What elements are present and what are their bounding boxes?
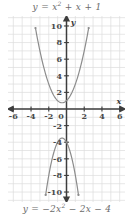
bottom-equation-text: y [23, 204, 28, 214]
tick-label: -10 [48, 187, 63, 197]
tick-label: -6 [9, 111, 18, 121]
plot-area: -6-4-22460108642-2-4-6-8-10xy [8, 16, 125, 202]
top-equation-equals: = [41, 2, 49, 12]
tick-label: -4 [27, 111, 36, 121]
tick-label: 0 [58, 111, 64, 121]
curve-endpoint-marker [77, 194, 79, 196]
curve-endpoint-marker [34, 27, 36, 29]
bottom-equation-exponent: 2 [61, 202, 65, 209]
coordinate-plane: -6-4-22460108642-2-4-6-8-10xy [8, 16, 125, 202]
bottom-equation-label: y = −2x2 − 2x − 4 [0, 204, 134, 214]
tick-label: -8 [53, 170, 62, 180]
tick-label: 6 [56, 54, 62, 64]
tick-label: 2 [81, 111, 87, 121]
tick-label: 2 [56, 87, 62, 97]
tick-label: 4 [56, 71, 62, 81]
tick-label: 10 [51, 21, 63, 31]
parabola-curve [35, 28, 88, 103]
graph-figure: y = x2 + x + 1 -6-4-22460108642-2-4-6-8-… [0, 0, 134, 217]
tick-label: 4 [99, 111, 105, 121]
tick-label: -6 [53, 154, 62, 164]
top-equation-label: y = x2 + x + 1 [0, 2, 134, 12]
bottom-equation-rest: − 2x − 4 [69, 204, 112, 214]
top-equation-rest: + x + 1 [65, 2, 102, 12]
bottom-equation-coef: −2 [42, 204, 56, 214]
tick-label: 8 [56, 37, 62, 47]
tick-label: 6 [117, 111, 123, 121]
curve-endpoint-marker [88, 27, 90, 29]
axes [8, 16, 125, 202]
top-equation-text: y [33, 2, 38, 12]
axis-name: x [116, 96, 122, 106]
tick-label: -2 [53, 121, 62, 131]
tick-label: -2 [44, 111, 53, 121]
tick-label: -4 [53, 137, 62, 147]
top-equation-exponent: 2 [58, 0, 62, 7]
curve-endpoint-marker [45, 194, 47, 196]
bottom-equation-equals: = [31, 204, 39, 214]
